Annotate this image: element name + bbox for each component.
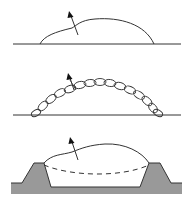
diagram-canvas: Smooth dome bulge on flat ground line wi…: [0, 0, 193, 206]
dashed-inner-curve: [44, 165, 149, 174]
arrow-icon: [69, 137, 79, 160]
panel-3-trench-dome: [0, 0, 193, 206]
ground-fill: [11, 163, 182, 194]
dome-outline: [44, 144, 149, 163]
